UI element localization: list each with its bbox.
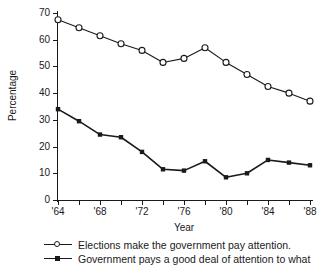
data-point-filled-square <box>203 159 207 163</box>
series-2 <box>56 107 312 180</box>
data-point-filled-square <box>182 168 186 172</box>
chart-legend: Elections make the government pay attent… <box>44 238 332 266</box>
data-point-filled-square <box>161 167 165 171</box>
data-point-open-circle <box>97 33 103 39</box>
data-point-open-circle <box>244 71 250 77</box>
data-point-filled-square <box>119 135 123 139</box>
open-circle-marker-icon <box>44 239 72 251</box>
filled-square-marker-icon <box>44 253 72 265</box>
data-point-filled-square <box>287 160 291 164</box>
data-point-filled-square <box>308 163 312 167</box>
data-point-filled-square <box>77 119 81 123</box>
series-1 <box>55 17 313 104</box>
data-point-open-circle <box>76 25 82 31</box>
data-point-filled-square <box>98 132 102 136</box>
data-point-open-circle <box>181 55 187 61</box>
data-point-filled-square <box>140 150 144 154</box>
legend-item-label: Elections make the government pay attent… <box>78 239 291 252</box>
data-point-filled-square <box>56 107 60 111</box>
legend-item-elections: Elections make the government pay attent… <box>44 238 332 252</box>
data-point-open-circle <box>139 47 145 53</box>
series-line <box>58 109 310 177</box>
data-point-open-circle <box>307 98 313 104</box>
data-point-open-circle <box>223 59 229 65</box>
data-point-open-circle <box>265 83 271 89</box>
data-point-open-circle <box>118 41 124 47</box>
legend-item-label: Government pays a good deal of attention… <box>78 253 310 266</box>
data-point-filled-square <box>224 175 228 179</box>
chart-figure: 010203040506070 '64'68'72'76'80'84'88 Pe… <box>0 0 332 266</box>
legend-item-government: Government pays a good deal of attention… <box>44 252 332 266</box>
data-point-open-circle <box>55 17 61 23</box>
data-point-open-circle <box>160 59 166 65</box>
series-plot <box>0 0 332 266</box>
data-point-open-circle <box>286 90 292 96</box>
data-point-filled-square <box>266 158 270 162</box>
data-point-filled-square <box>245 171 249 175</box>
data-point-open-circle <box>202 45 208 51</box>
